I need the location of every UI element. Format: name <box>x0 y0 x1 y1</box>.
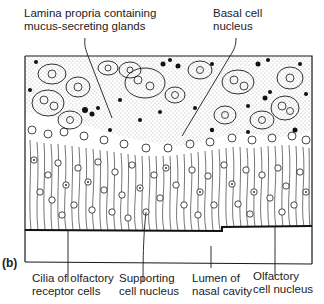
label-line: cell nucleus <box>119 285 179 297</box>
panel-label: (b) <box>2 256 17 270</box>
label-line: receptor cells <box>32 285 100 297</box>
label-line: Cilia of olfactory <box>32 272 114 284</box>
label-cilia: Cilia of olfactoryreceptor cells <box>32 272 114 298</box>
label-olfactory-cell-nucleus: Olfactorycell nucleus <box>253 270 313 296</box>
label-line: Basal cell <box>213 7 262 19</box>
label-lamina-propria: Lamina propria containingmucus-secreting… <box>24 7 156 33</box>
label-line: Olfactory <box>253 270 299 282</box>
label-line: Supporting <box>119 272 175 284</box>
histology-illustration <box>0 0 324 304</box>
label-line: Lamina propria containing <box>24 7 156 19</box>
label-line: Lumen of <box>192 272 240 284</box>
label-line: nasal cavity <box>192 285 252 297</box>
label-lumen: Lumen ofnasal cavity <box>192 272 252 298</box>
label-line: mucus-secreting glands <box>24 20 145 32</box>
label-basal-cell-nucleus: Basal cellnucleus <box>213 7 262 33</box>
label-supporting-cell-nucleus: Supportingcell nucleus <box>119 272 179 298</box>
label-line: cell nucleus <box>253 283 313 295</box>
label-line: nucleus <box>213 20 253 32</box>
olfactory-epithelium <box>30 140 310 230</box>
